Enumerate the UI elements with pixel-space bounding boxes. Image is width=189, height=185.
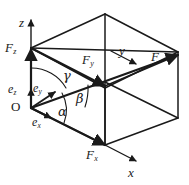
label-unit-ex: ex bbox=[32, 116, 41, 130]
label-unit-ez-sub: z bbox=[14, 88, 17, 97]
angle-label-alpha: α bbox=[58, 105, 67, 118]
axis-label-x: x bbox=[128, 166, 134, 179]
label-force-resultant: F bbox=[151, 50, 159, 63]
origin-label: O bbox=[11, 100, 20, 113]
label-unit-ez: ez bbox=[8, 83, 16, 97]
axis-x bbox=[105, 145, 136, 161]
label-force-y-base: F bbox=[82, 52, 90, 67]
axis-label-y: y bbox=[119, 44, 125, 57]
figure-canvas: z y x O Fz Fy Fx F ez ey ex α β γ bbox=[0, 0, 189, 185]
angle-label-beta: β bbox=[76, 92, 84, 105]
label-force-x-base: F bbox=[86, 147, 94, 162]
label-force-x: Fx bbox=[86, 148, 98, 163]
label-unit-ey: ey bbox=[33, 82, 42, 96]
label-force-resultant-base: F bbox=[151, 49, 159, 64]
label-force-z-sub: z bbox=[13, 47, 16, 56]
label-unit-ey-sub: y bbox=[39, 87, 42, 96]
label-force-z: Fz bbox=[5, 41, 16, 56]
label-force-y: Fy bbox=[82, 53, 94, 68]
label-force-y-sub: y bbox=[90, 59, 94, 68]
label-unit-ex-sub: x bbox=[38, 121, 41, 130]
label-unit-ex-base: e bbox=[32, 115, 37, 129]
axis-label-z: z bbox=[19, 16, 24, 29]
label-unit-ey-base: e bbox=[33, 81, 38, 95]
label-unit-ez-base: e bbox=[8, 82, 13, 96]
angle-label-gamma: γ bbox=[63, 69, 71, 82]
label-force-x-sub: x bbox=[94, 154, 98, 163]
label-force-z-base: F bbox=[5, 40, 13, 55]
